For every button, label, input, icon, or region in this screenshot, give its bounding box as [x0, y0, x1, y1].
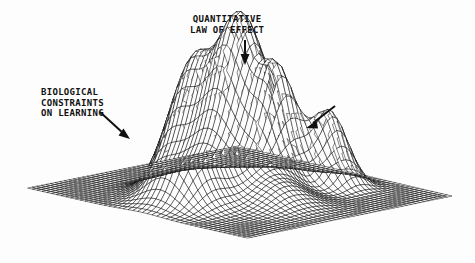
arrow-down-left-icon	[304, 106, 336, 132]
annotation-label-quantitative: QUANTITATIVE LAW OF EFFECT	[190, 14, 264, 35]
arrow-down-icon	[236, 40, 256, 66]
arrow-down-right-icon	[100, 112, 134, 142]
annotation-label-biological: BIOLOGICAL CONSTRAINTS ON LEARNING	[41, 87, 104, 119]
figure-canvas: QUANTITATIVE LAW OF EFFECT BIOLOGICAL CO…	[0, 0, 475, 263]
